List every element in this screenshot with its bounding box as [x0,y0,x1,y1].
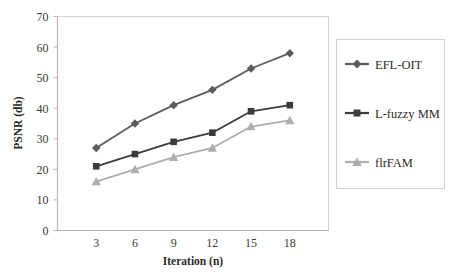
x-tick-label: 12 [206,236,218,250]
y-tick-label: 30 [37,132,49,146]
y-tick-label: 70 [37,10,49,24]
legend: EFL-OITL-fuzzy MMflrFAM [337,40,445,189]
y-tick-label: 20 [37,163,49,177]
legend-item-label: EFL-OIT [375,58,423,72]
x-tick-label: 6 [132,236,138,250]
x-tick-label: 15 [245,236,257,250]
y-tick-label: 10 [37,193,49,207]
data-point-square-icon [354,110,361,117]
data-point-square-icon [286,102,293,109]
psnr-vs-iteration-line-chart: 010203040506070 369121518 PSNR (db) Iter… [0,0,459,274]
x-axis-title: Iteration (n) [163,255,224,268]
y-axis-title: PSNR (db) [12,96,25,150]
x-tick-label: 18 [284,236,296,250]
legend-item-label: L-fuzzy MM [375,107,440,121]
data-point-square-icon [93,163,100,170]
legend-item-label: flrFAM [375,156,413,170]
data-point-square-icon [248,108,255,115]
data-point-square-icon [170,139,177,146]
y-tick-label: 60 [37,41,49,55]
x-tick-label: 9 [171,236,177,250]
data-point-square-icon [209,129,216,136]
chart-figure: 010203040506070 369121518 PSNR (db) Iter… [0,0,459,274]
x-tick-label: 3 [93,236,99,250]
data-point-square-icon [132,151,139,158]
y-tick-label: 40 [37,102,49,116]
y-tick-label: 0 [43,224,49,238]
y-tick-label: 50 [37,71,49,85]
